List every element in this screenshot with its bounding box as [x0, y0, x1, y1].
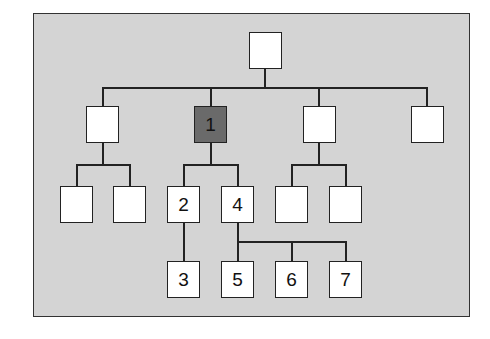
tree-node: 4 [221, 186, 254, 223]
tree-node: 7 [329, 261, 362, 298]
tree-node [411, 106, 444, 143]
tree-node-highlighted: 1 [194, 106, 227, 143]
tree-node [113, 186, 146, 223]
connector [291, 241, 293, 261]
connector [291, 164, 293, 186]
tree-node: 5 [221, 261, 254, 298]
connector [183, 223, 185, 261]
tree-node-root [249, 32, 282, 69]
connector [345, 241, 347, 261]
connector [102, 143, 104, 165]
connector [237, 164, 239, 186]
tree-node [60, 186, 93, 223]
tree-node: 2 [167, 186, 200, 223]
tree-node [303, 106, 336, 143]
connector [183, 164, 238, 166]
connector [102, 87, 428, 89]
connector [345, 164, 347, 186]
connector [210, 87, 212, 106]
connector [318, 87, 320, 106]
connector [210, 143, 212, 165]
connector [102, 87, 104, 106]
connector [129, 164, 131, 186]
connector [76, 164, 130, 166]
connector [291, 164, 346, 166]
tree-node [275, 186, 308, 223]
tree-node: 6 [275, 261, 308, 298]
tree-node: 3 [167, 261, 200, 298]
connector [426, 87, 428, 106]
connector [183, 164, 185, 186]
tree-node [86, 106, 119, 143]
connector [318, 143, 320, 165]
connector [264, 69, 266, 89]
tree-node [329, 186, 362, 223]
connector [76, 164, 78, 186]
